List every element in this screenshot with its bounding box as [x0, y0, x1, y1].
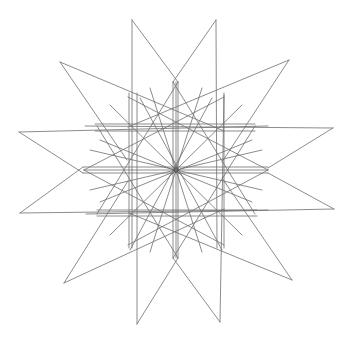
- geometric-star-diagram: [0, 0, 352, 341]
- star-figure: [0, 0, 352, 341]
